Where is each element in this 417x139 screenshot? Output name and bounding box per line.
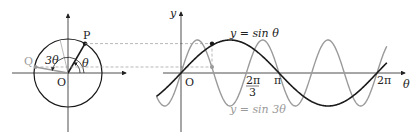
unit-circle-panel: P Q O θ 3θ (12, 14, 126, 132)
graph-y-label: y (169, 7, 177, 20)
theta-arc (74, 63, 80, 73)
graph-x-label: θ (403, 78, 410, 91)
sine-graph-panel: y θ O 2π 3 π 2π y = sin θ y = sin 3θ (157, 7, 411, 132)
label-3theta: 3θ (45, 54, 59, 67)
trig-diagram: P Q O θ 3θ y θ O 2π 3 π 2π y = sin θ y =… (0, 0, 417, 139)
tick-pi: π (274, 74, 281, 87)
segment-OQ (36, 67, 69, 73)
point-sin-3theta (210, 65, 214, 69)
label-theta: θ (82, 57, 89, 70)
tick-2pi: 2π (377, 74, 391, 87)
tick-2pi-3-den: 3 (249, 86, 256, 99)
graph-origin-label: O (185, 76, 194, 89)
point-sin-theta (210, 41, 214, 45)
label-y-sin-3theta: y = sin 3θ (229, 103, 286, 116)
label-y-sin-theta: y = sin θ (229, 27, 279, 40)
label-O: O (57, 76, 66, 89)
helper-line (60, 40, 68, 74)
label-Q: Q (24, 55, 33, 68)
label-P: P (83, 29, 91, 42)
